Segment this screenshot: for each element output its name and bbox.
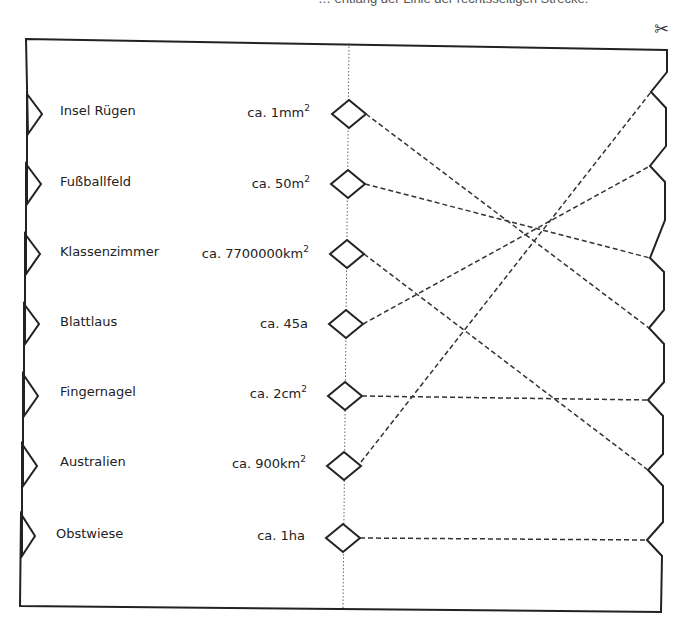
diamond-connector-2[interactable] xyxy=(331,170,365,198)
connection-line-6 xyxy=(361,92,651,462)
item-value-2: ca. 50m2 xyxy=(110,174,310,191)
item-value-3: ca. 7700000km2 xyxy=(109,244,309,261)
item-value-4: ca. 45a xyxy=(108,314,308,331)
connection-line-7 xyxy=(360,538,647,540)
item-value-6: ca. 900km2 xyxy=(106,454,306,471)
diamond-connector-6[interactable] xyxy=(327,452,361,480)
connection-line-3 xyxy=(364,254,648,470)
item-value-1: ca. 1mm2 xyxy=(110,103,310,120)
diamond-connector-5[interactable] xyxy=(328,382,362,410)
diamond-connector-7[interactable] xyxy=(326,524,360,552)
connection-line-2 xyxy=(365,184,650,258)
diamond-connector-3[interactable] xyxy=(330,240,364,268)
diamond-connector-4[interactable] xyxy=(329,310,363,338)
item-value-7: ca. 1ha xyxy=(105,526,305,543)
diamond-connector-1[interactable] xyxy=(332,100,366,128)
connection-line-4 xyxy=(363,166,650,324)
connection-line-5 xyxy=(362,396,648,400)
item-value-5: ca. 2cm2 xyxy=(107,384,307,401)
